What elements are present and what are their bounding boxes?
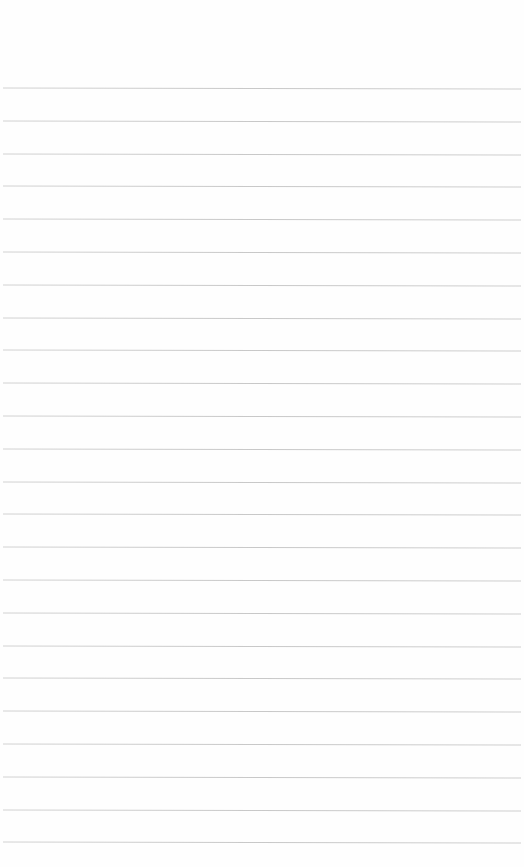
ruled-line — [3, 514, 521, 516]
ruled-line — [3, 252, 521, 254]
ruled-line — [3, 646, 521, 648]
ruled-line — [3, 580, 521, 582]
ruled-line — [3, 186, 521, 188]
ruled-line — [3, 842, 521, 844]
ruled-line — [3, 154, 521, 156]
ruled-line — [3, 318, 521, 320]
ruled-line — [3, 613, 521, 615]
ruled-line — [3, 777, 521, 779]
ruled-line — [3, 744, 521, 746]
ruled-line — [3, 711, 521, 713]
ruled-line — [3, 88, 521, 90]
ruled-line — [3, 482, 521, 484]
ruled-line — [3, 383, 521, 385]
ruled-line — [3, 547, 521, 549]
ruled-line — [3, 285, 521, 287]
ruled-line — [3, 678, 521, 680]
ruled-line — [3, 350, 521, 352]
ruled-line — [3, 219, 521, 221]
ruled-line — [3, 449, 521, 451]
ruled-line — [3, 810, 521, 812]
lined-paper-page — [0, 0, 524, 867]
ruled-line — [3, 121, 521, 123]
ruled-line — [3, 416, 521, 418]
